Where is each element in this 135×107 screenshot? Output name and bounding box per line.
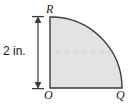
dimension-label: 2 in. (3, 44, 26, 58)
vertex-label-r: R (46, 2, 53, 17)
dimension-line-group (32, 16, 44, 89)
vertex-label-q: Q (116, 88, 125, 103)
vertex-label-o: O (44, 88, 53, 103)
quarter-circle-sector (50, 17, 122, 88)
geometry-figure: 0 0 0 0 0 0 0 2 in. R O Q (0, 0, 135, 107)
